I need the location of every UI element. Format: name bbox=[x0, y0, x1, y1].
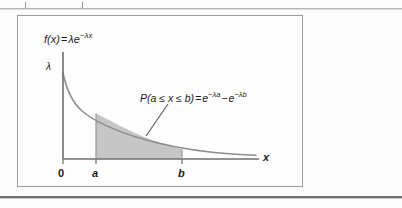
probability-equation-minus: − bbox=[220, 92, 228, 104]
annotation-leader-line bbox=[146, 104, 168, 136]
probability-equation-label: P(a ≤ x ≤ b)=e−λa−e−λb bbox=[140, 91, 247, 103]
function-equation-lhs: f(x) bbox=[44, 33, 60, 45]
page-canvas: f(x)=λe−λx λ P(a ≤ x ≤ b)=e−λa−e−λb x 0 … bbox=[0, 0, 402, 208]
x-axis-label: x bbox=[263, 152, 269, 163]
x-tick-label-zero: 0 bbox=[58, 168, 64, 179]
top-rule-tick-left bbox=[25, 2, 26, 8]
x-tick-label-a: a bbox=[92, 168, 98, 179]
function-equation-rhs-exponent: −λx bbox=[80, 31, 92, 40]
probability-equation-lhs: P(a ≤ x ≤ b) bbox=[140, 92, 194, 104]
probability-term2-exponent: −λb bbox=[234, 90, 246, 99]
y-axis-lambda-label: λ bbox=[46, 62, 51, 72]
probability-term1-exponent: −λa bbox=[208, 90, 220, 99]
function-equation-rhs-base: λe bbox=[68, 33, 80, 45]
shaded-probability-region bbox=[96, 114, 182, 160]
top-divider-rule-shadow bbox=[0, 9, 402, 10]
figure-box: f(x)=λe−λx λ P(a ≤ x ≤ b)=e−λa−e−λb x 0 … bbox=[17, 15, 303, 187]
x-tick-label-b: b bbox=[178, 168, 185, 179]
exponential-curve bbox=[63, 73, 256, 155]
bottom-divider-rule-shadow bbox=[0, 198, 402, 199]
function-equation-label: f(x)=λe−λx bbox=[44, 32, 92, 45]
top-rule-tick-right bbox=[82, 2, 83, 8]
